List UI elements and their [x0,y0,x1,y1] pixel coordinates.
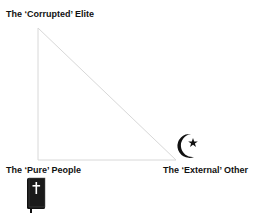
label-pure-people: The ‘Pure’ People [6,165,81,175]
triangle-diagram [0,0,265,218]
label-external-other: The ‘External’ Other [163,165,248,175]
bible-cross-icon [27,178,45,213]
crescent-star-icon [177,134,197,158]
triangle-edges [38,28,176,160]
